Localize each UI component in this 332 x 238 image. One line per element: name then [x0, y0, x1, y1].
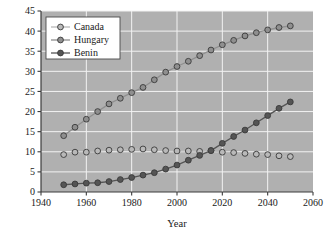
data-point-marker — [276, 105, 282, 111]
data-point-marker — [185, 157, 191, 163]
y-tick-label: 10 — [25, 146, 35, 157]
data-point-marker — [163, 69, 169, 75]
data-point-marker — [265, 27, 271, 33]
data-point-marker — [140, 146, 146, 152]
legend-item-label: Benin — [74, 47, 98, 58]
data-point-marker — [253, 30, 259, 36]
y-tick-label: 45 — [25, 5, 35, 16]
data-point-marker — [174, 162, 180, 168]
data-point-marker — [265, 113, 271, 119]
data-point-marker — [242, 33, 248, 39]
legend-marker-swatch — [58, 50, 64, 56]
data-point-marker — [276, 153, 282, 159]
data-point-marker — [72, 124, 78, 130]
y-tick-label: 0 — [30, 186, 35, 197]
data-point-marker — [95, 148, 101, 154]
data-point-marker — [231, 134, 237, 140]
data-point-marker — [197, 153, 203, 159]
data-point-marker — [61, 133, 67, 139]
data-point-marker — [163, 166, 169, 172]
data-point-marker — [265, 152, 271, 158]
data-point-marker — [83, 149, 89, 155]
data-point-marker — [174, 64, 180, 70]
data-point-marker — [83, 116, 89, 122]
data-point-marker — [61, 182, 67, 188]
data-point-marker — [117, 95, 123, 101]
data-point-marker — [242, 150, 248, 156]
data-point-marker — [106, 101, 112, 107]
data-point-marker — [151, 170, 157, 176]
data-point-marker — [287, 154, 293, 160]
x-tick-label: 2060 — [303, 197, 323, 208]
chart-figure: 051015202530354045 194019601980200020202… — [0, 0, 332, 238]
data-point-marker — [129, 90, 135, 96]
data-point-marker — [72, 181, 78, 187]
data-point-marker — [163, 148, 169, 154]
data-point-marker — [117, 177, 123, 183]
data-point-marker — [287, 23, 293, 29]
data-point-marker — [174, 148, 180, 154]
y-tick-label: 30 — [25, 66, 35, 77]
chart-legend[interactable]: CanadaHungaryBenin — [46, 17, 120, 59]
data-point-marker — [61, 152, 67, 158]
y-tick-label: 20 — [25, 106, 35, 117]
data-point-marker — [276, 25, 282, 31]
data-point-marker — [242, 127, 248, 133]
y-tick-label: 35 — [25, 46, 35, 57]
legend-marker-swatch — [58, 37, 64, 43]
data-point-marker — [140, 85, 146, 91]
y-tick-label: 5 — [30, 166, 35, 177]
data-point-marker — [106, 147, 112, 153]
data-point-marker — [231, 150, 237, 156]
data-point-marker — [83, 180, 89, 186]
data-point-marker — [253, 151, 259, 157]
data-point-marker — [95, 109, 101, 115]
x-tick-label: 2000 — [167, 197, 187, 208]
legend-marker-swatch — [58, 24, 64, 30]
data-point-marker — [208, 47, 214, 53]
data-point-marker — [219, 140, 225, 146]
x-tick-label: 2020 — [212, 197, 232, 208]
legend-item-label: Canada — [74, 21, 105, 32]
data-point-marker — [129, 175, 135, 181]
data-point-marker — [140, 172, 146, 178]
data-point-marker — [151, 147, 157, 153]
y-tick-label: 25 — [25, 86, 35, 97]
data-point-marker — [185, 148, 191, 154]
line-chart-canvas: 051015202530354045 194019601980200020202… — [0, 0, 332, 238]
data-point-marker — [231, 37, 237, 43]
legend-item-label: Hungary — [74, 34, 109, 45]
data-point-marker — [106, 179, 112, 185]
x-axis-title: Year — [167, 218, 187, 229]
data-point-marker — [219, 149, 225, 155]
y-tick-label: 15 — [25, 126, 35, 137]
data-point-marker — [253, 120, 259, 126]
data-point-marker — [72, 149, 78, 155]
data-point-marker — [287, 99, 293, 105]
x-tick-label: 2040 — [258, 197, 278, 208]
data-point-marker — [95, 180, 101, 186]
data-point-marker — [117, 147, 123, 153]
data-point-marker — [129, 146, 135, 152]
x-tick-label: 1960 — [76, 197, 96, 208]
data-point-marker — [197, 53, 203, 59]
data-point-marker — [208, 148, 214, 154]
x-tick-label: 1980 — [122, 197, 142, 208]
data-point-marker — [151, 77, 157, 83]
data-point-marker — [219, 42, 225, 48]
x-tick-label: 1940 — [31, 197, 51, 208]
data-point-marker — [185, 58, 191, 64]
y-tick-label: 40 — [25, 26, 35, 37]
